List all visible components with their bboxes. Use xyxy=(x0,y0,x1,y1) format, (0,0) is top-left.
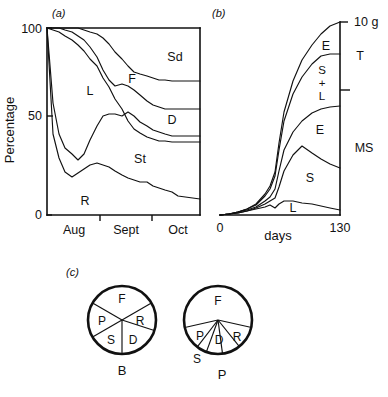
panel-b-label-s: S xyxy=(318,64,326,76)
panel-a-xlabel-oct: Oct xyxy=(168,223,188,237)
panel-a-ylabel: Percentage xyxy=(2,97,17,164)
panel-b-label-l-stack: L xyxy=(319,90,326,102)
panel-b-label-s-region: S xyxy=(306,171,314,185)
pie-b-slice-s: S xyxy=(107,333,115,347)
scientific-figure: (a) Percentage 100 50 0 Aug Sept Oct xyxy=(0,0,388,397)
panel-b-bracket-ms: MS xyxy=(355,141,374,155)
pie-b-slice-r: R xyxy=(136,314,145,328)
panel-a-ytick-0: 0 xyxy=(35,208,42,222)
panel-a-xlabel-aug: Aug xyxy=(63,223,85,237)
panel-b-top-label: 10 g xyxy=(354,15,378,29)
pie-p-slice-s: S xyxy=(193,352,201,366)
panel-b-label-plus: + xyxy=(319,77,326,89)
panel-a-label: (a) xyxy=(52,7,66,19)
panel-a-xlabel-sept: Sept xyxy=(113,223,139,237)
panel-a-label-st: St xyxy=(134,152,146,166)
pie-p-caption: P xyxy=(218,367,227,382)
pie-b-slice-f: F xyxy=(118,292,125,306)
pie-b-slice-p: P xyxy=(98,314,106,328)
panel-a-label-l: L xyxy=(87,84,94,98)
panel-a-label-r: R xyxy=(80,194,89,208)
panel-b-xlabel: days xyxy=(264,228,292,243)
pie-p-slice-f: F xyxy=(214,294,221,308)
panel-b-label-e-upper: E xyxy=(322,39,330,53)
panel-a-ytick-100: 100 xyxy=(21,22,42,36)
pie-p-slice-r: R xyxy=(233,330,242,344)
panel-a-label-d: D xyxy=(167,113,176,127)
pie-p-slice-d: D xyxy=(215,333,224,347)
panel-b-label-e-lower: E xyxy=(316,123,324,137)
pie-b-caption: B xyxy=(118,363,127,378)
panel-b-xtick-0: 0 xyxy=(217,221,224,235)
pie-b-slice-d: D xyxy=(129,333,138,347)
panel-b-bracket-t: T xyxy=(356,49,364,63)
pie-p-slice-p: P xyxy=(196,329,204,343)
panel-c-label: (c) xyxy=(66,266,79,278)
panel-a-label-sd: Sd xyxy=(167,50,182,64)
panel-a-label-f: F xyxy=(128,72,136,86)
figure-root: (a) Percentage 100 50 0 Aug Sept Oct xyxy=(0,0,388,397)
panel-b-xtick-130: 130 xyxy=(330,221,351,235)
panel-b-label-l-region: L xyxy=(290,201,297,215)
panel-b-label: (b) xyxy=(212,7,226,19)
panel-a-ytick-50: 50 xyxy=(28,109,42,123)
panel-b-label-s-plus-l: S + L xyxy=(318,64,326,102)
